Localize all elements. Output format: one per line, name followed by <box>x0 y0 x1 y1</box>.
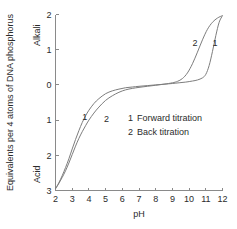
y-tick-label: 2 <box>46 10 51 20</box>
acid-direction-label: Acid <box>32 165 42 183</box>
alkali-direction-label: Alkali <box>32 24 42 46</box>
y-tick-label: 0 <box>46 80 51 90</box>
legend-key-1: 1 <box>128 113 133 123</box>
curve-label-2: 2 <box>192 38 197 48</box>
y-tick-label: 1 <box>46 45 51 55</box>
x-tick-label: 6 <box>120 194 125 204</box>
titration-chart-figure: 23456789101112210123 1221 1Forward titra… <box>0 0 237 229</box>
curve-label-1: 1 <box>82 112 87 122</box>
chart-canvas: 23456789101112210123 1221 1Forward titra… <box>0 0 237 229</box>
y-tick-label: 1 <box>46 115 51 125</box>
x-tick-label: 5 <box>103 194 108 204</box>
x-axis-title: pH <box>133 209 145 219</box>
axis-titles: pHEquivalents per 4 atoms of DNA phospho… <box>5 13 145 218</box>
y-axis-title: Equivalents per 4 atoms of DNA phosphoru… <box>5 13 15 191</box>
x-tick-label: 4 <box>86 194 91 204</box>
legend-label-2: Back titration <box>137 127 189 137</box>
axis-tick-labels: 23456789101112210123 <box>46 10 227 204</box>
x-tick-label: 9 <box>170 194 175 204</box>
x-tick-label: 11 <box>201 194 210 204</box>
curve-annotations: 1221 <box>82 38 217 124</box>
x-tick-label: 7 <box>136 194 141 204</box>
x-tick-label: 8 <box>153 194 158 204</box>
x-tick-label: 3 <box>70 194 75 204</box>
x-tick-label: 2 <box>53 194 58 204</box>
legend-key-2: 2 <box>128 127 133 137</box>
curve-label-2: 2 <box>104 114 109 124</box>
curve-label-1: 1 <box>212 38 217 48</box>
x-tick-label: 12 <box>217 194 227 204</box>
y-tick-label: 2 <box>46 151 51 161</box>
legend-label-1: Forward titration <box>137 113 202 123</box>
y-tick-label: 3 <box>46 186 51 196</box>
x-tick-label: 10 <box>184 194 194 204</box>
chart-legend: 1Forward titration2Back titration <box>128 113 202 137</box>
